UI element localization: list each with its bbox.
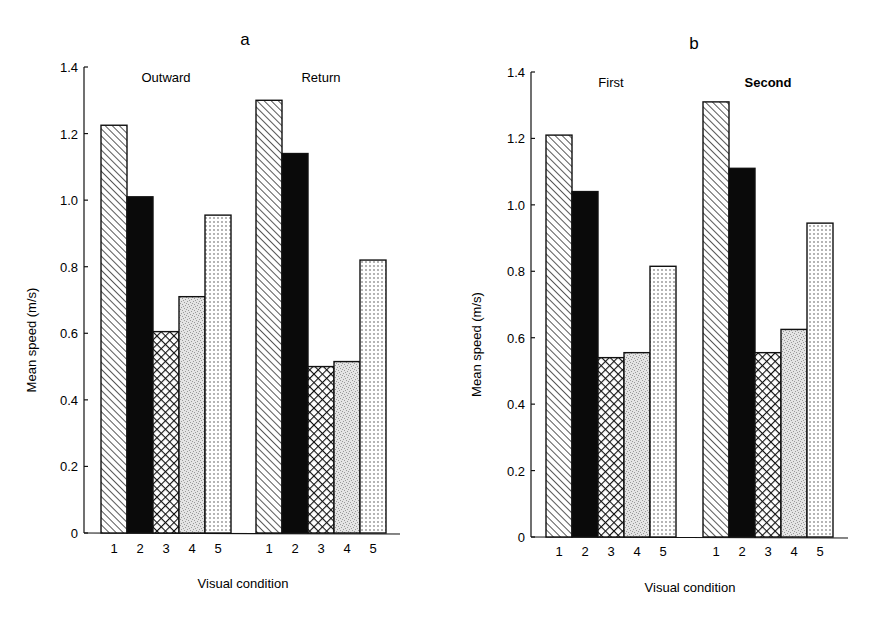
bar: [624, 353, 650, 537]
x-tick-label: 5: [214, 541, 221, 556]
chart-title: a: [240, 30, 250, 49]
x-tick-label: 1: [555, 544, 562, 559]
y-tick-label: 0.8: [507, 264, 525, 279]
y-tick-label: 0.4: [507, 397, 525, 412]
y-tick-label: 1.2: [507, 131, 525, 146]
x-tick-label: 3: [607, 544, 614, 559]
x-tick-label: 5: [816, 544, 823, 559]
bar-chart-b: b00.20.40.60.81.01.21.4Mean speed (m/s)1…: [440, 0, 880, 619]
bar: [572, 192, 598, 537]
bar: [546, 135, 572, 537]
bar: [282, 154, 308, 533]
y-tick-label: 0.6: [60, 326, 78, 341]
y-tick-label: 0.4: [60, 393, 78, 408]
y-tick-label: 0.8: [60, 260, 78, 275]
bar: [101, 125, 127, 533]
y-tick-label: 1.4: [60, 60, 78, 75]
bar-group-first: [546, 135, 676, 537]
bar: [127, 197, 153, 533]
x-axis-label: Visual condition: [645, 580, 736, 595]
bar-chart-a: a00.20.40.60.81.01.21.4Mean speed (m/s)1…: [0, 0, 440, 619]
y-tick-label: 0.2: [507, 464, 525, 479]
bar: [598, 358, 624, 537]
bar: [729, 168, 755, 537]
bar: [334, 362, 360, 533]
y-tick-label: 1.0: [60, 193, 78, 208]
x-tick-label: 1: [712, 544, 719, 559]
x-tick-label: 1: [110, 541, 117, 556]
bar: [256, 100, 282, 533]
bar: [781, 329, 807, 537]
group-label: Outward: [141, 70, 190, 85]
group-label: Return: [301, 70, 340, 85]
x-tick-label: 3: [764, 544, 771, 559]
x-tick-label: 3: [317, 541, 324, 556]
x-tick-label: 2: [581, 544, 588, 559]
bar-group-return: [256, 100, 386, 533]
x-tick-label: 4: [343, 541, 350, 556]
bar-group-second: [703, 102, 833, 537]
x-tick-label: 4: [790, 544, 797, 559]
y-tick-label: 1.0: [507, 198, 525, 213]
x-tick-label: 1: [265, 541, 272, 556]
bar-group-outward: [101, 125, 231, 533]
bar: [650, 266, 676, 537]
x-tick-label: 4: [188, 541, 195, 556]
group-label: First: [598, 75, 624, 90]
group-label: Second: [745, 75, 792, 90]
x-tick-label: 3: [162, 541, 169, 556]
bar: [755, 353, 781, 537]
bar: [205, 215, 231, 533]
x-tick-label: 5: [659, 544, 666, 559]
y-tick-label: 1.4: [507, 65, 525, 80]
bar: [703, 102, 729, 537]
x-tick-label: 5: [369, 541, 376, 556]
y-axis-label: Mean speed (m/s): [469, 292, 484, 397]
bar: [179, 297, 205, 533]
x-tick-label: 2: [136, 541, 143, 556]
x-tick-label: 2: [291, 541, 298, 556]
chart-panel-a: a00.20.40.60.81.01.21.4Mean speed (m/s)1…: [0, 0, 440, 619]
y-tick-label: 0: [71, 526, 78, 541]
bar: [807, 223, 833, 537]
y-axis-label: Mean speed (m/s): [24, 288, 39, 393]
x-tick-label: 2: [738, 544, 745, 559]
chart-panel-b: b00.20.40.60.81.01.21.4Mean speed (m/s)1…: [440, 0, 880, 619]
bar: [153, 332, 179, 533]
chart-title: b: [689, 34, 698, 53]
y-tick-label: 0: [518, 530, 525, 545]
x-axis-label: Visual condition: [198, 576, 289, 591]
bar: [360, 260, 386, 533]
y-tick-label: 1.2: [60, 127, 78, 142]
y-tick-label: 0.6: [507, 331, 525, 346]
y-tick-label: 0.2: [60, 459, 78, 474]
bar: [308, 367, 334, 533]
x-tick-label: 4: [633, 544, 640, 559]
